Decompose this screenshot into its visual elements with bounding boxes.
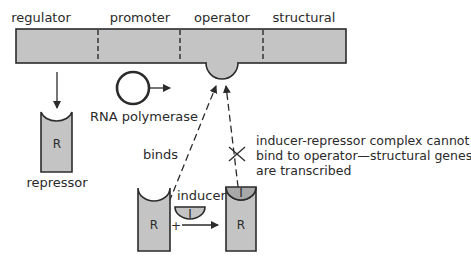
dna-bar bbox=[16, 29, 346, 79]
segment-label-structural: structural bbox=[273, 10, 336, 25]
blocked-x-icon bbox=[229, 147, 245, 161]
blocked-note-line2: bind to operator—structural genes bbox=[256, 148, 471, 163]
rna-polymerase-label: RNA polymerase bbox=[90, 109, 198, 124]
plus-sign: + bbox=[171, 219, 181, 233]
operator-site bbox=[206, 63, 238, 79]
repressor-label: repressor bbox=[26, 175, 88, 190]
lac-operon-diagram: regulator promoter operator structural R… bbox=[0, 0, 471, 263]
rna-polymerase-circle bbox=[117, 72, 149, 104]
segment-label-regulator: regulator bbox=[11, 10, 71, 25]
binds-label: binds bbox=[143, 147, 178, 162]
segment-label-promoter: promoter bbox=[110, 10, 171, 25]
inducer-symbol: I bbox=[188, 207, 192, 221]
segment-label-operator: operator bbox=[194, 10, 251, 25]
inducer-label: inducer bbox=[177, 188, 226, 203]
complex-repressor-symbol: R bbox=[237, 218, 245, 232]
bottom-repressor-symbol: R bbox=[150, 218, 158, 232]
complex-inducer-symbol: I bbox=[239, 186, 243, 200]
blocked-note-line1: inducer-repressor complex cannot bbox=[256, 133, 469, 148]
repressor-symbol: R bbox=[53, 137, 61, 151]
blocked-note-line3: are transcribed bbox=[256, 163, 351, 178]
